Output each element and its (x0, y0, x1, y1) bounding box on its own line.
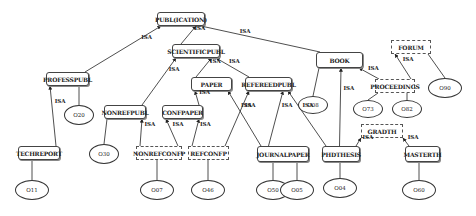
class-confpaper: CONFPAPER (162, 105, 203, 119)
class-label: MASTERTH (403, 151, 441, 158)
isa-label: ISA (173, 121, 184, 127)
class-label: PHDTHESIS (321, 151, 361, 158)
class-label: FORUM (398, 44, 423, 51)
isa-label: ISA (245, 102, 256, 108)
class-journalpaper: JOURNALPAPER (257, 146, 309, 162)
object-label: O07 (151, 187, 163, 193)
object-o04: O04 (323, 178, 357, 198)
isa-label: ISA (408, 134, 419, 140)
instance-edge-o73 (368, 93, 378, 100)
class-refconfp: REFCONFP (188, 146, 229, 160)
object-label: O05 (291, 187, 303, 193)
isa-edge-refconfp-confpaper (192, 119, 199, 146)
class-label: BOOK (329, 57, 349, 64)
isa-label: ISA (210, 58, 221, 64)
object-label: O46 (202, 187, 214, 193)
object-label: O73 (362, 106, 374, 112)
object-label: O90 (439, 85, 451, 91)
class-label: PROCEEDINGS (370, 83, 419, 90)
object-o20: O20 (64, 105, 94, 125)
isa-label: ISA (302, 102, 313, 108)
object-label: O20 (73, 112, 85, 118)
isa-edge-journalpaper-paper (228, 91, 261, 146)
object-label: O11 (26, 187, 38, 193)
class-nonrefpubl: NONREFPUBL (104, 105, 146, 119)
instance-edge-o90 (428, 54, 445, 78)
isa-edge-nonrefpubl-scientificpubl (142, 58, 176, 105)
instance-edge-o08 (313, 68, 319, 96)
isa-label: ISA (141, 34, 152, 40)
object-o11: O11 (15, 180, 49, 200)
isa-label: ISA (403, 56, 414, 62)
class-refereedpubl: REFEREEDPUBL (245, 77, 292, 91)
isa-label: ISA (344, 85, 355, 91)
object-o82: O82 (392, 100, 422, 118)
class-label: NONREFCONFP (133, 150, 185, 157)
isa-edge-refconfp-refereedpubl (225, 91, 249, 146)
class-forum: FORUM (391, 40, 431, 54)
object-label: O30 (98, 151, 110, 157)
isa-label: ISA (282, 102, 293, 108)
isa-edge-journalpaper-refereedpubl (269, 91, 284, 146)
class-professpubl: PROFESSPUBL (46, 72, 89, 86)
isa-label: ISA (229, 58, 240, 64)
class-publication: PUBL(ICATION) (157, 12, 205, 26)
class-masterth: MASTERTH (405, 146, 440, 162)
class-paper: PAPER (191, 77, 232, 91)
object-o90: O90 (428, 78, 462, 98)
object-o07: O07 (140, 180, 174, 200)
isa-label: ISA (195, 25, 206, 31)
class-label: REFEREEDPUBL (241, 81, 295, 88)
class-book: BOOK (316, 52, 363, 68)
isa-edge-techreport-professpubl (50, 86, 56, 146)
class-label: PROFESSPUBL (43, 76, 92, 83)
class-techreport: TECHREPORT (18, 146, 60, 160)
isa-hierarchy-diagram: PUBL(ICATION) SCIENTIFICPUBL BOOK FORUM … (0, 0, 476, 216)
object-o73: O73 (353, 100, 383, 118)
isa-edge-phdthesis-book (340, 68, 342, 146)
class-label: PAPER (201, 81, 223, 88)
isa-edge-phdthesis-gradth (356, 138, 361, 146)
object-label: O50 (267, 187, 279, 193)
object-label: O60 (413, 187, 425, 193)
class-label: CONFPAPER (162, 109, 203, 116)
isa-label: ISA (199, 89, 210, 95)
class-proceedings: PROCEEDINGS (375, 79, 415, 93)
class-label: REFCONFP (190, 150, 226, 157)
object-o60: O60 (402, 180, 436, 200)
isa-label: ISA (368, 65, 379, 71)
object-label: O82 (401, 106, 413, 112)
class-phdthesis: PHDTHESIS (322, 146, 360, 162)
class-label: JOURNALPAPER (256, 151, 309, 158)
isa-label: ISA (240, 28, 251, 34)
object-o46: O46 (191, 180, 225, 200)
class-label: SCIENTIFICPUBL (167, 48, 224, 55)
object-o30: O30 (89, 144, 119, 164)
isa-label: ISA (169, 66, 180, 72)
object-o05: O05 (280, 180, 314, 200)
class-nonrefconfp: NONREFCONFP (136, 146, 182, 160)
object-label: O04 (334, 185, 346, 191)
class-label: TECHREPORT (16, 150, 62, 157)
isa-label: ISA (144, 121, 155, 127)
isa-edge-nonrefconfp-nonrefpubl (140, 119, 142, 146)
isa-label: ISA (55, 98, 66, 104)
isa-label: ISA (200, 121, 211, 127)
isa-label: ISA (363, 134, 374, 140)
class-scientificpubl: SCIENTIFICPUBL (172, 44, 220, 58)
class-label: PUBL(ICATION) (155, 16, 207, 23)
class-label: NONREFPUBL (101, 109, 148, 116)
instance-edge-o30 (104, 119, 107, 144)
